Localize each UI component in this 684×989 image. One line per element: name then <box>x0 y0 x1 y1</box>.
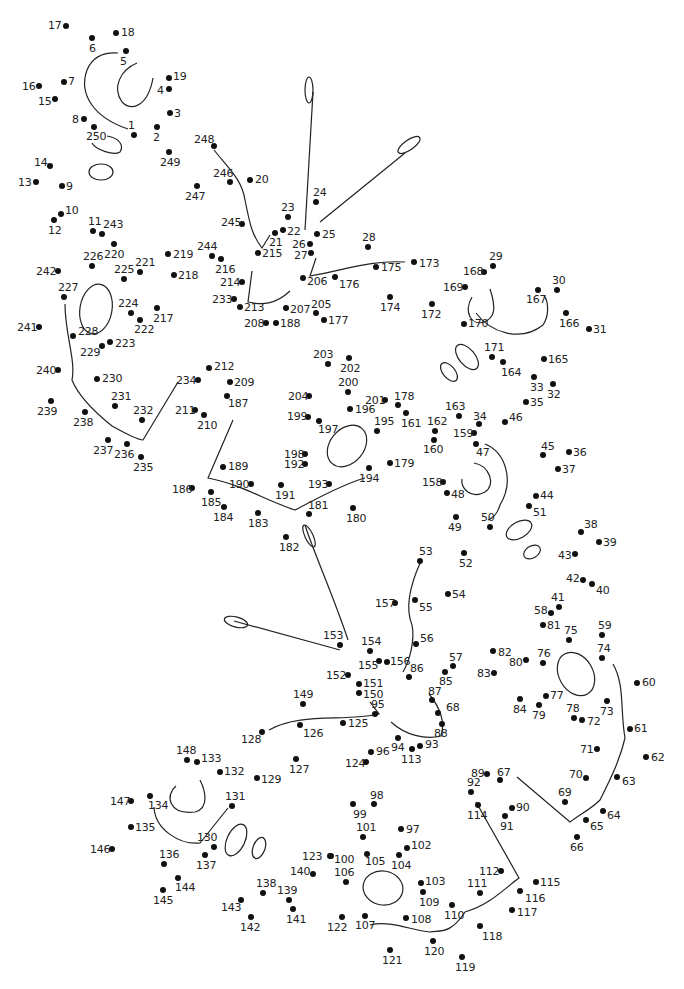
dot-149[interactable] <box>300 701 306 707</box>
dot-230[interactable] <box>94 376 100 382</box>
dot-224[interactable] <box>128 310 134 316</box>
dot-170[interactable] <box>461 321 467 327</box>
dot-237[interactable] <box>105 437 111 443</box>
dot-89[interactable] <box>484 771 490 777</box>
dot-19[interactable] <box>166 75 172 81</box>
dot-18[interactable] <box>113 30 119 36</box>
dot-35[interactable] <box>523 399 529 405</box>
dot-103[interactable] <box>418 880 424 886</box>
dot-75[interactable] <box>566 637 572 643</box>
dot-115[interactable] <box>533 879 539 885</box>
dot-14[interactable] <box>47 163 53 169</box>
dot-164[interactable] <box>500 359 506 365</box>
dot-121[interactable] <box>387 947 393 953</box>
dot-153[interactable] <box>337 642 343 648</box>
dot-15[interactable] <box>52 96 58 102</box>
dot-12[interactable] <box>51 217 57 223</box>
dot-137[interactable] <box>202 852 208 858</box>
dot-209[interactable] <box>227 379 233 385</box>
dot-7[interactable] <box>61 79 67 85</box>
dot-119[interactable] <box>459 954 465 960</box>
dot-184[interactable] <box>221 504 227 510</box>
dot-64[interactable] <box>600 808 606 814</box>
dot-182[interactable] <box>283 534 289 540</box>
dot-101[interactable] <box>360 834 366 840</box>
dot-120[interactable] <box>430 938 436 944</box>
dot-91[interactable] <box>502 813 508 819</box>
dot-28[interactable] <box>365 244 371 250</box>
dot-213[interactable] <box>237 304 243 310</box>
dot-189[interactable] <box>220 464 226 470</box>
dot-5[interactable] <box>123 48 129 54</box>
dot-11[interactable] <box>90 228 96 234</box>
dot-17[interactable] <box>63 23 69 29</box>
dot-177[interactable] <box>321 317 327 323</box>
dot-195[interactable] <box>374 428 380 434</box>
dot-70[interactable] <box>583 775 589 781</box>
dot-76[interactable] <box>540 660 546 666</box>
dot-1[interactable] <box>131 132 137 138</box>
dot-231[interactable] <box>112 403 118 409</box>
dot-9[interactable] <box>59 183 65 189</box>
dot-114[interactable] <box>475 802 481 808</box>
dot-62[interactable] <box>643 754 649 760</box>
dot-30[interactable] <box>554 287 560 293</box>
dot-125[interactable] <box>340 720 346 726</box>
dot-163[interactable] <box>456 413 462 419</box>
dot-217[interactable] <box>154 305 160 311</box>
dot-24[interactable] <box>313 199 319 205</box>
dot-206[interactable] <box>300 275 306 281</box>
dot-196[interactable] <box>347 406 353 412</box>
dot-151[interactable] <box>356 681 362 687</box>
dot-44[interactable] <box>533 493 539 499</box>
dot-97[interactable] <box>398 826 404 832</box>
dot-132[interactable] <box>217 769 223 775</box>
dot-202[interactable] <box>346 355 352 361</box>
dot-243[interactable] <box>99 231 105 237</box>
dot-13[interactable] <box>33 179 39 185</box>
dot-138[interactable] <box>260 890 266 896</box>
dot-219[interactable] <box>165 251 171 257</box>
dot-80[interactable] <box>523 657 529 663</box>
dot-131[interactable] <box>229 803 235 809</box>
dot-148[interactable] <box>184 757 190 763</box>
dot-43[interactable] <box>572 551 578 557</box>
dot-10[interactable] <box>58 211 64 217</box>
dot-73[interactable] <box>604 698 610 704</box>
dot-60[interactable] <box>634 680 640 686</box>
dot-46[interactable] <box>502 419 508 425</box>
dot-216[interactable] <box>218 256 224 262</box>
dot-162[interactable] <box>432 428 438 434</box>
dot-95[interactable] <box>372 711 378 717</box>
dot-41[interactable] <box>556 604 562 610</box>
dot-99[interactable] <box>350 801 356 807</box>
dot-194[interactable] <box>366 465 372 471</box>
dot-42[interactable] <box>580 577 586 583</box>
dot-150[interactable] <box>356 690 362 696</box>
dot-172[interactable] <box>429 301 435 307</box>
dot-55[interactable] <box>412 597 418 603</box>
dot-90[interactable] <box>509 805 515 811</box>
dot-92[interactable] <box>468 789 474 795</box>
dot-22[interactable] <box>280 227 286 233</box>
dot-65[interactable] <box>583 817 589 823</box>
dot-247[interactable] <box>194 183 200 189</box>
dot-63[interactable] <box>614 774 620 780</box>
dot-127[interactable] <box>293 756 299 762</box>
dot-139[interactable] <box>286 897 292 903</box>
dot-20[interactable] <box>247 177 253 183</box>
dot-68[interactable] <box>435 710 441 716</box>
dot-141[interactable] <box>290 906 296 912</box>
dot-39[interactable] <box>596 539 602 545</box>
dot-84[interactable] <box>517 696 523 702</box>
dot-122[interactable] <box>339 914 345 920</box>
dot-27[interactable] <box>308 250 314 256</box>
dot-130[interactable] <box>211 844 217 850</box>
dot-220[interactable] <box>111 241 117 247</box>
dot-210[interactable] <box>201 412 207 418</box>
dot-239[interactable] <box>48 398 54 404</box>
dot-82[interactable] <box>490 648 496 654</box>
dot-83[interactable] <box>491 670 497 676</box>
dot-203[interactable] <box>325 361 331 367</box>
dot-215[interactable] <box>255 250 261 256</box>
